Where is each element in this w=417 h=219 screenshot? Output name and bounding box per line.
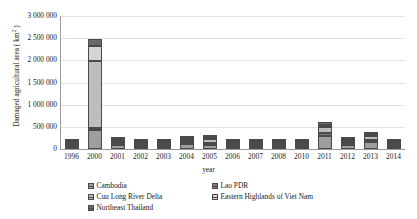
y-axis-tick-label: 0: [0, 145, 57, 153]
bar-stack: [387, 139, 401, 149]
x-axis-tick-label: 2014: [377, 152, 411, 161]
bar-stack: [203, 135, 217, 149]
bar-segment: [318, 136, 332, 149]
plot-area: [60, 16, 405, 150]
bar-stack: [341, 137, 355, 149]
legend-swatch: [212, 194, 218, 200]
legend-swatch: [88, 205, 94, 211]
bar-segment: [157, 147, 171, 149]
bar-segment: [203, 145, 217, 149]
y-axis-line: [60, 16, 61, 150]
gridline: [60, 16, 405, 17]
bar-segment: [88, 61, 102, 128]
y-axis-tick-label: 1 500 000: [0, 79, 57, 87]
stacked-bar-chart: Damaged agricultural area ( km2 ) 3 000 …: [0, 0, 417, 219]
bar-segment: [341, 145, 355, 149]
legend-label: Eastern Highlands of Viet Nam: [221, 192, 314, 202]
bar-stack: [134, 139, 148, 149]
gridline: [60, 38, 405, 39]
bar-stack: [364, 132, 378, 149]
legend-swatch: [212, 183, 218, 189]
bar-segment: [111, 145, 125, 149]
bar-segment: [295, 147, 309, 149]
legend-label: Cuu Long River Delta: [97, 192, 163, 202]
gridline: [60, 83, 405, 84]
y-axis-tick-label: 500 000: [0, 123, 57, 131]
bar-segment: [180, 144, 194, 149]
y-axis-tick-label: 2 500 000: [0, 34, 57, 42]
gridline: [60, 105, 405, 106]
bar-segment: [364, 142, 378, 149]
legend-label: Cambodia: [97, 181, 127, 191]
legend-item: Cuu Long River Delta: [88, 192, 206, 202]
x-axis-line: [60, 149, 405, 150]
bar-segment: [88, 46, 102, 62]
chart-legend: CambodiaLao PDRCuu Long River DeltaEaste…: [88, 181, 388, 213]
legend-spacer: [212, 203, 394, 213]
y-axis-tick-label: 2 000 000: [0, 56, 57, 64]
bar-segment: [249, 147, 263, 149]
bar-segment: [65, 147, 79, 149]
bar-stack: [318, 122, 332, 149]
bar-segment: [226, 147, 240, 149]
bar-stack: [180, 136, 194, 149]
legend-item: Northeast Thailand: [88, 203, 206, 213]
y-axis-tick-label: 3 000 000: [0, 12, 57, 20]
legend-item: Lao PDR: [212, 181, 394, 191]
bar-stack: [88, 39, 102, 149]
bar-segment: [387, 147, 401, 149]
bar-segment: [88, 39, 102, 46]
bar-stack: [111, 137, 125, 149]
legend-item: Eastern Highlands of Viet Nam: [212, 192, 394, 202]
y-axis-tick-label: 1 000 000: [0, 101, 57, 109]
gridline: [60, 60, 405, 61]
bar-stack: [65, 139, 79, 149]
legend-label: Lao PDR: [221, 181, 249, 191]
x-axis-title: year: [0, 165, 417, 174]
bar-stack: [272, 139, 286, 149]
gridline: [60, 127, 405, 128]
legend-item: Cambodia: [88, 181, 206, 191]
legend-label: Northeast Thailand: [97, 203, 154, 213]
bar-segment: [272, 147, 286, 149]
bar-segment: [88, 130, 102, 149]
bar-segment: [134, 147, 148, 149]
bar-stack: [226, 139, 240, 149]
legend-swatch: [88, 183, 94, 189]
bar-stack: [295, 139, 309, 149]
bar-stack: [157, 139, 171, 149]
bar-stack: [249, 139, 263, 149]
legend-swatch: [88, 194, 94, 200]
